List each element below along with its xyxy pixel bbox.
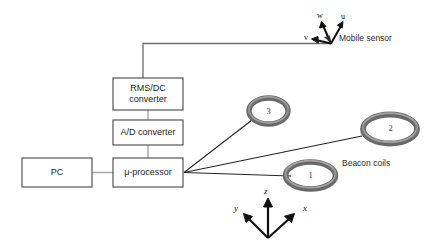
global-axis-z-label: z xyxy=(264,186,268,197)
coil-1-number: 1 xyxy=(300,170,321,180)
block-ad-converter-label: A/D converter xyxy=(113,127,183,138)
global-axis-x-label: x xyxy=(303,203,307,214)
block-uprocessor-label: μ-processor xyxy=(113,167,183,178)
beam-to-coil-3 xyxy=(184,120,252,173)
sensor-axis-v-label: v xyxy=(304,33,308,42)
sensor-axis-w-label: w xyxy=(317,11,323,20)
mobile-sensor-label: Mobile sensor xyxy=(339,33,392,43)
beam-to-coil-2 xyxy=(184,136,362,173)
beacon-coils-label: Beacon coils xyxy=(342,158,390,168)
global-axis-y-arrow xyxy=(244,214,269,239)
global-axis-x-arrow xyxy=(268,214,295,239)
beam-group xyxy=(184,120,362,176)
beam-to-coil-1 xyxy=(184,173,291,177)
diagram-canvas: PC RMS/DC converter A/D converter μ-proc… xyxy=(0,0,440,249)
global-axis-y-label: y xyxy=(234,203,238,214)
global-axes xyxy=(244,198,295,238)
sensor-axis-u-label: u xyxy=(341,12,345,21)
coil-3-number: 3 xyxy=(258,106,279,116)
block-rmsdc-label-line2: converter xyxy=(113,94,183,105)
coil-2-number: 2 xyxy=(380,123,401,133)
block-rmsdc-label-line1: RMS/DC xyxy=(113,83,183,94)
wire-rmsdc-to-mobile-sensor xyxy=(143,44,331,79)
block-pc-label: PC xyxy=(22,167,92,178)
global-axis-z-arrow xyxy=(264,198,273,238)
